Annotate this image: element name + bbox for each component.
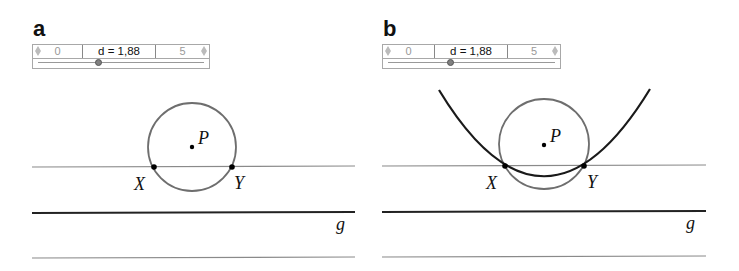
label-y: Y: [234, 173, 246, 193]
label-x: X: [485, 173, 498, 193]
line-through-xy: [382, 165, 706, 166]
parallel-line-bottom: [32, 257, 355, 258]
line-g: [32, 212, 355, 213]
label-g: g: [686, 213, 695, 233]
label-g: g: [336, 214, 345, 234]
point-x[interactable]: [502, 163, 508, 169]
point-x[interactable]: [151, 164, 157, 170]
point-y[interactable]: [229, 164, 235, 170]
label-x: X: [133, 174, 146, 194]
panel-a-figure: P X Y g: [32, 103, 355, 258]
line-through-xy: [32, 166, 355, 167]
geometry-canvas: P X Y g P X Y g: [0, 0, 739, 271]
point-y[interactable]: [581, 163, 587, 169]
parallel-line-bottom: [382, 256, 706, 257]
panel-b-figure: P X Y g: [382, 89, 706, 257]
label-p: P: [197, 128, 209, 148]
point-p[interactable]: [190, 145, 194, 149]
label-p: P: [549, 126, 561, 146]
label-y: Y: [587, 172, 599, 192]
point-p[interactable]: [542, 143, 546, 147]
parabola: [439, 89, 650, 176]
line-g: [382, 211, 706, 212]
